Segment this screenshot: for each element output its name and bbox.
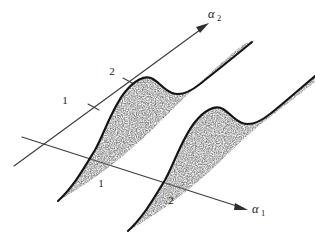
alpha-1-tick-label-2: 2 xyxy=(168,194,174,206)
alpha-2-label-base: α xyxy=(208,7,215,21)
alpha-2-tick-label-1: 1 xyxy=(62,94,68,106)
alpha-2-axis-label: α 2 xyxy=(208,7,221,23)
alpha-2-tick-label-2: 2 xyxy=(109,65,115,77)
alpha-1-tick-label-1: 1 xyxy=(98,177,104,189)
alpha-1-axis-label: α 1 xyxy=(252,202,265,218)
alpha-2-label-subscript: 2 xyxy=(217,13,221,23)
alpha-1-label-base: α xyxy=(252,202,259,216)
alpha-1-label-subscript: 1 xyxy=(261,208,265,218)
alpha-1-arrow-head xyxy=(234,203,248,210)
surface-plot-figure: 1 2 1 2 α 2 α 1 xyxy=(0,0,315,237)
